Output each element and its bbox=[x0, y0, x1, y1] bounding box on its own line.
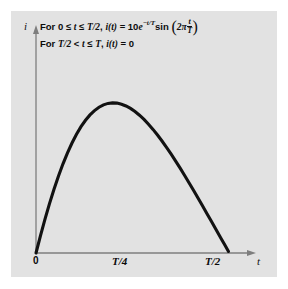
equation-line-1: For 0 ≤ t ≤ T/2, i(t) = 10e−t/Tsin (2πtT… bbox=[40, 18, 198, 36]
eq1-exponent: −t/T bbox=[143, 19, 155, 27]
eq1-sin: sin bbox=[155, 21, 169, 32]
eq1-fraction-denominator: T bbox=[187, 26, 192, 35]
eq1-two-pi: 2π bbox=[177, 22, 187, 32]
eq2-value: 0 bbox=[129, 38, 134, 49]
eq2-comma: , bbox=[101, 38, 104, 49]
eq1-equals: = bbox=[120, 21, 126, 32]
eq1-var: t bbox=[74, 22, 77, 32]
x-tick-label-quarter: T/4 bbox=[112, 256, 127, 267]
equation-annotation: For 0 ≤ t ≤ T/2, i(t) = 10e−t/Tsin (2πtT… bbox=[40, 18, 198, 49]
eq1-fraction: tT bbox=[187, 18, 192, 36]
y-axis-label: i bbox=[24, 21, 27, 32]
damped-sine-curve bbox=[36, 103, 229, 253]
eq2-equals: = bbox=[120, 38, 126, 49]
x-tick-label-half: T/2 bbox=[205, 256, 220, 267]
eq1-amplitude: 10 bbox=[128, 21, 139, 32]
eq2-prefix: For bbox=[40, 38, 55, 49]
eq2-rel1: < bbox=[74, 38, 80, 49]
eq2-rel2: ≤ bbox=[87, 38, 92, 49]
eq1-rel2: ≤ bbox=[79, 21, 84, 32]
eq2-var: t bbox=[82, 39, 85, 49]
x-axis-arrowhead bbox=[247, 250, 256, 256]
eq2-func: i(t) bbox=[106, 39, 118, 49]
eq1-fraction-numerator: t bbox=[187, 18, 192, 26]
x-axis-label: t bbox=[257, 256, 260, 267]
eq1-rel1: ≤ bbox=[66, 21, 71, 32]
eq1-lower: 0 bbox=[58, 21, 63, 32]
eq1-open-paren: ( bbox=[171, 18, 176, 35]
eq1-close-paren: ) bbox=[193, 18, 198, 35]
eq1-upper: T/2 bbox=[87, 22, 100, 32]
eq2-lower: T/2 bbox=[58, 39, 71, 49]
eq1-comma: , bbox=[100, 21, 103, 32]
x-tick-label-origin: 0 bbox=[33, 256, 39, 266]
eq1-func: i(t) bbox=[105, 22, 117, 32]
figure-container: i t 0 T/4 T/2 For 0 ≤ t ≤ T/2, i(t) = 10… bbox=[0, 0, 288, 289]
eq1-prefix: For bbox=[40, 21, 55, 32]
y-axis-arrowhead bbox=[33, 25, 39, 34]
equation-line-2: For T/2 < t ≤ T, i(t) = 0 bbox=[40, 38, 198, 49]
